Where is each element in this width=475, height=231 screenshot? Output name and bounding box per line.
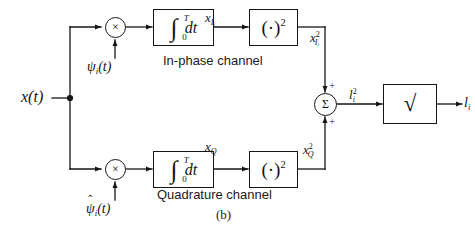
quadrature-integrator-block[interactable]: ∫T0 dt bbox=[153, 151, 214, 188]
figure-caption: (b) bbox=[216, 207, 231, 223]
inphase-multiplier[interactable]: × bbox=[105, 17, 126, 38]
summer-top-sign: + bbox=[329, 79, 335, 91]
xi2-subscript: Ii bbox=[315, 38, 319, 47]
summer-bottom-sign: + bbox=[329, 115, 335, 127]
xi-subscript: Ii bbox=[211, 18, 215, 27]
quadrature-carrier-symbol: ˆψ bbox=[86, 202, 95, 216]
inphase-carrier-arg: (t) bbox=[98, 59, 111, 74]
summing-junction[interactable]: Σ bbox=[314, 93, 337, 116]
inphase-integrator-output-label: xIi bbox=[205, 11, 215, 28]
inphase-carrier-symbol: ψ bbox=[87, 59, 96, 74]
integral-upper-limit: T bbox=[184, 15, 189, 22]
integral-lower-limit: 0 bbox=[182, 176, 187, 183]
multiply-icon: × bbox=[112, 20, 119, 35]
quadrature-squarer-block[interactable]: (·)2 bbox=[249, 151, 298, 188]
integral-sign: ∫T0 bbox=[170, 18, 189, 38]
inphase-squarer-block[interactable]: (·)2 bbox=[249, 9, 298, 46]
output-signal-label: li bbox=[464, 96, 470, 111]
quadrature-channel-caption: Quadrature channel bbox=[157, 188, 272, 201]
quadrature-carrier-arg: (t) bbox=[97, 201, 110, 216]
inphase-squarer-output-label: x2Ii bbox=[310, 31, 319, 48]
inphase-channel-caption: In-phase channel bbox=[163, 54, 263, 67]
xq-subscript: Q bbox=[211, 147, 217, 156]
summer-output-label: l2i bbox=[349, 88, 355, 104]
quadrature-multiplier[interactable]: × bbox=[105, 159, 126, 180]
sigma-icon: Σ bbox=[322, 97, 329, 112]
integral-upper-limit: T bbox=[184, 157, 189, 164]
l2-subscript: i bbox=[353, 95, 355, 104]
square-icon: (·)2 bbox=[261, 159, 285, 181]
input-signal-label: x(t) bbox=[21, 89, 43, 105]
quadrature-carrier-label: ˆψi(t) bbox=[86, 202, 110, 217]
xq2-subscript: Q bbox=[308, 150, 314, 159]
integral-lower-limit: 0 bbox=[182, 34, 187, 41]
multiply-icon: × bbox=[112, 162, 119, 177]
li-subscript: i bbox=[468, 102, 470, 112]
quadrature-integrator-output-label: xQ bbox=[205, 140, 217, 156]
integral-sign: ∫T0 bbox=[170, 160, 189, 180]
square-icon: (·)2 bbox=[261, 17, 285, 39]
square-root-icon: √ bbox=[404, 91, 417, 117]
integral-icon: ∫T0 dt bbox=[170, 18, 197, 38]
square-root-block[interactable]: √ bbox=[383, 84, 437, 124]
integral-icon: ∫T0 dt bbox=[170, 160, 197, 180]
quadrature-squarer-output-label: x2Q bbox=[303, 143, 314, 159]
inphase-carrier-label: ψi(t) bbox=[87, 60, 111, 75]
junction-dot bbox=[67, 95, 73, 101]
quadrature-receiver-diagram: x(t) × ψi(t) ∫T0 dt xIi (·)2 x2Ii In-pha… bbox=[0, 0, 475, 231]
hat-accent-icon: ˆ bbox=[88, 195, 92, 207]
